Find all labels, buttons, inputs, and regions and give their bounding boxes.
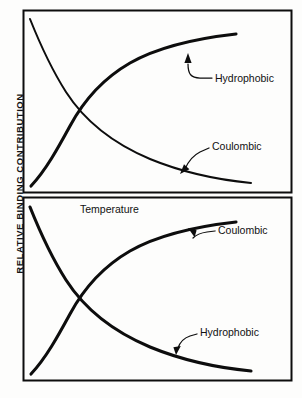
upper-hydrophobic-label: Hydrophobic <box>215 72 274 84</box>
lower-hydrophobic-leader <box>178 334 197 348</box>
lower-rising-curve <box>31 222 236 374</box>
upper-hydrophobic-leader <box>188 64 212 78</box>
lower-panel: Temperature Coulombic Hydrophobic <box>24 198 292 381</box>
lower-hydrophobic-arrowhead <box>173 346 180 355</box>
upper-coulombic-leader <box>185 148 209 169</box>
upper-panel-frame <box>24 11 292 193</box>
upper-hydrophobic-arrowhead <box>184 53 191 63</box>
x-axis-label: Temperature <box>80 203 139 215</box>
upper-falling-curve <box>30 19 251 183</box>
upper-coulombic-label: Coulombic <box>212 140 262 152</box>
upper-panel: Hydrophobic Coulombic <box>24 11 292 193</box>
lower-coulombic-leader <box>193 231 215 238</box>
figure-container: RELATIVE BINDING CONTRIBUTION Hydrophobi… <box>0 0 302 398</box>
figure-svg: Hydrophobic Coulombic Temperature Coulom… <box>0 0 302 398</box>
upper-rising-curve <box>31 34 236 186</box>
lower-coulombic-label: Coulombic <box>218 224 268 236</box>
lower-hydrophobic-label: Hydrophobic <box>200 326 259 338</box>
